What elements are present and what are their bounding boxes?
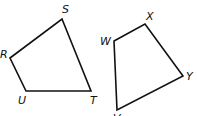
quadrilateral-wxyv: [114, 24, 183, 110]
vertex-label-r: R: [0, 48, 8, 61]
quadrilateral-rstu: [10, 19, 91, 91]
quadrilaterals-diagram: RSTUWXYV: [0, 0, 197, 116]
vertex-label-x: X: [145, 10, 154, 23]
vertex-label-v: V: [113, 112, 122, 116]
vertex-label-y: Y: [186, 70, 194, 83]
vertex-label-u: U: [18, 94, 26, 107]
vertex-label-t: T: [90, 94, 98, 107]
vertex-label-w: W: [100, 35, 112, 48]
vertex-label-s: S: [62, 3, 69, 16]
